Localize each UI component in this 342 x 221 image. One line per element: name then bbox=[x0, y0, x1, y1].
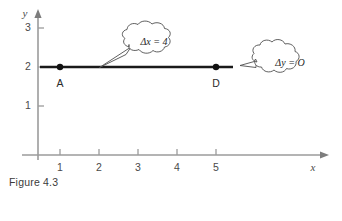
y-tick-label-3: 3 bbox=[25, 21, 31, 33]
y-axis-label: y bbox=[22, 7, 28, 19]
x-tick-label-1: 1 bbox=[57, 161, 63, 173]
callout-delta-x: Δx = 4 bbox=[100, 21, 171, 67]
point-d-dot bbox=[213, 64, 219, 70]
point-d-group: D bbox=[212, 64, 220, 89]
x-axis-arrowhead bbox=[320, 151, 329, 158]
point-a-dot bbox=[57, 64, 63, 70]
y-axis-arrowhead bbox=[34, 9, 41, 18]
x-tick-label-2: 2 bbox=[96, 161, 102, 173]
callout-delta-x-tail bbox=[100, 47, 132, 68]
x-tick-label-4: 4 bbox=[174, 161, 180, 173]
figure-container: 3 2 1 1 2 3 4 5 x y A D bbox=[0, 0, 342, 221]
x-tick-label-3: 3 bbox=[135, 161, 141, 173]
point-a-label: A bbox=[56, 77, 63, 89]
axes-group bbox=[22, 9, 329, 160]
callout-delta-y-text: Δy = O bbox=[274, 57, 304, 68]
x-tick-label-5: 5 bbox=[213, 161, 219, 173]
y-tick-label-1: 1 bbox=[25, 99, 31, 111]
callout-delta-y-tail bbox=[240, 61, 256, 68]
callout-delta-y: Δy = O bbox=[240, 40, 305, 73]
point-d-label: D bbox=[212, 77, 220, 89]
y-tick-label-2: 2 bbox=[25, 60, 31, 72]
x-axis-label: x bbox=[310, 161, 316, 173]
x-ticks-group: 1 2 3 4 5 bbox=[57, 149, 219, 173]
point-a-group: A bbox=[56, 64, 63, 89]
callout-delta-x-text: Δx = 4 bbox=[139, 36, 167, 47]
figure-caption: Figure 4.3 bbox=[9, 176, 58, 188]
